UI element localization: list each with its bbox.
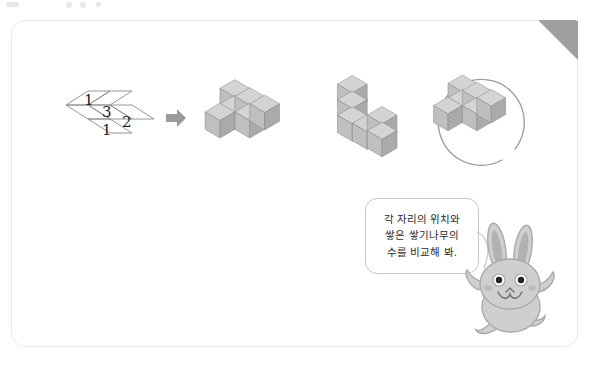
arrow-right-icon	[164, 107, 188, 129]
artifact-dot	[66, 2, 72, 8]
artifact-dot	[96, 2, 101, 7]
page-fold-icon	[538, 20, 578, 60]
top-artifact-strip	[0, 0, 598, 14]
grid-cell-value: 3	[102, 105, 112, 120]
grid-cell-value: 2	[122, 115, 132, 130]
hint-line: 각 자리의 위치와	[384, 213, 461, 226]
cube-stack-third-circled[interactable]	[424, 63, 536, 175]
artifact-dot	[6, 2, 19, 7]
cube-stack-second	[330, 65, 426, 175]
hint-line: 수를 비교해 봐.	[387, 246, 457, 259]
artifact-dot	[80, 2, 86, 8]
grid-cell-value: 1	[102, 123, 112, 138]
grid-cell-value: 1	[84, 93, 94, 108]
numbered-position-grid: 1 3 2 1	[64, 87, 156, 149]
rabbit-mascot	[450, 222, 570, 344]
hint-line: 쌓은 쌓기나무의	[385, 229, 458, 242]
cube-stack-first	[202, 71, 308, 171]
